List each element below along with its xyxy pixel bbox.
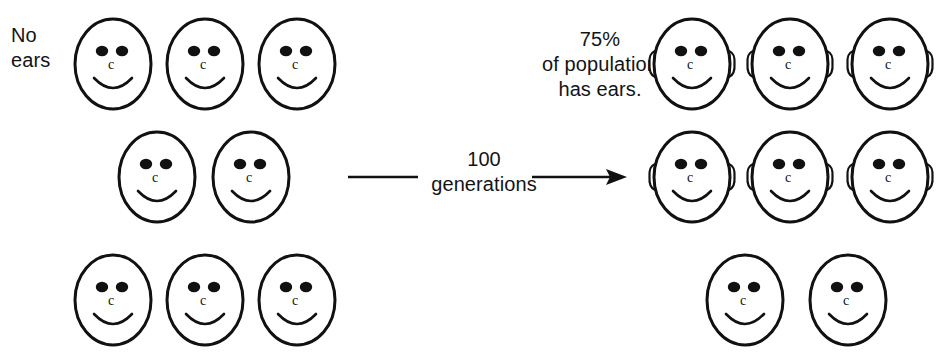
eye-left	[773, 46, 785, 56]
eye-right	[254, 159, 266, 169]
eye-right	[893, 159, 905, 169]
eye-left	[873, 159, 885, 169]
nose-icon: c	[108, 57, 114, 72]
arrow-head	[606, 169, 627, 185]
nose-icon: c	[785, 170, 791, 185]
eye-right	[695, 46, 707, 56]
nose-icon: c	[292, 293, 298, 308]
arrow-label: 100 generations	[418, 147, 550, 197]
nose-icon: c	[246, 170, 252, 185]
smiley-face-icon-no-ears: c	[157, 245, 253, 352]
eye-right	[208, 46, 220, 56]
smiley-face-icon-no-ears: c	[65, 9, 161, 119]
eye-right	[208, 282, 220, 292]
eye-right	[851, 282, 863, 292]
smiley-face-icon-with-ears: c	[644, 9, 740, 119]
eye-left	[96, 46, 108, 56]
eye-right	[893, 46, 905, 56]
nose-icon: c	[152, 170, 158, 185]
eye-right	[116, 46, 128, 56]
smiley-face-icon-with-ears: c	[842, 122, 938, 232]
eye-left	[675, 46, 687, 56]
smiley-face-icon-with-ears: c	[742, 9, 838, 119]
smiley-face-icon-no-ears: c	[157, 9, 253, 119]
smiley-face-icon-no-ears: c	[109, 122, 205, 232]
nose-icon: c	[885, 57, 891, 72]
eye-right	[793, 46, 805, 56]
smiley-face-icon-no-ears: c	[697, 245, 793, 352]
eye-left	[234, 159, 246, 169]
eye-left	[140, 159, 152, 169]
nose-icon: c	[108, 293, 114, 308]
eye-left	[873, 46, 885, 56]
smiley-face-icon-with-ears: c	[644, 122, 740, 232]
nose-icon: c	[885, 170, 891, 185]
nose-icon: c	[740, 293, 746, 308]
figure-canvas: No ears 75% of population has ears. 100 …	[0, 0, 948, 352]
smiley-face-icon-no-ears: c	[203, 122, 299, 232]
eye-left	[188, 46, 200, 56]
eye-left	[280, 46, 292, 56]
eye-right	[300, 46, 312, 56]
left-group-label: No ears	[11, 23, 50, 73]
nose-icon: c	[200, 293, 206, 308]
eye-right	[116, 282, 128, 292]
eye-left	[188, 282, 200, 292]
smiley-face-icon-with-ears: c	[842, 9, 938, 119]
eye-right	[793, 159, 805, 169]
smiley-face-icon-no-ears: c	[249, 9, 345, 119]
eye-left	[96, 282, 108, 292]
eye-left	[675, 159, 687, 169]
eye-right	[300, 282, 312, 292]
nose-icon: c	[200, 57, 206, 72]
eye-left	[728, 282, 740, 292]
eye-left	[773, 159, 785, 169]
eye-right	[748, 282, 760, 292]
nose-icon: c	[843, 293, 849, 308]
eye-right	[160, 159, 172, 169]
eye-left	[831, 282, 843, 292]
nose-icon: c	[785, 57, 791, 72]
smiley-face-icon-no-ears: c	[800, 245, 896, 352]
eye-right	[695, 159, 707, 169]
nose-icon: c	[687, 57, 693, 72]
smiley-face-icon-no-ears: c	[65, 245, 161, 352]
nose-icon: c	[687, 170, 693, 185]
smiley-face-icon-with-ears: c	[742, 122, 838, 232]
eye-left	[280, 282, 292, 292]
smiley-face-icon-no-ears: c	[249, 245, 345, 352]
nose-icon: c	[292, 57, 298, 72]
